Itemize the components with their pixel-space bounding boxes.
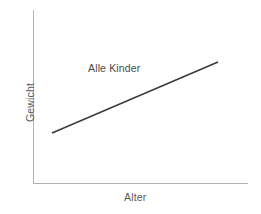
series-annotation-label: Alle Kinder	[88, 63, 140, 74]
y-axis-label: Gewicht	[25, 83, 36, 122]
chart-canvas	[0, 0, 261, 214]
x-axis-label: Alter	[124, 192, 146, 203]
chart-figure: Gewicht Alter Alle Kinder	[0, 0, 261, 214]
